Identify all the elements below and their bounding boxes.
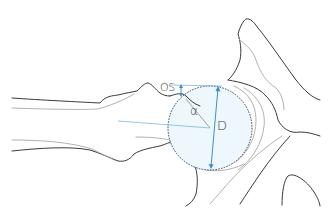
offset-arrow-head-top (179, 84, 183, 88)
socket-outer-outline (228, 19, 320, 100)
shaft-upper-outline (12, 83, 170, 103)
obturator-arc (282, 175, 320, 206)
offset-top-reference-line (170, 85, 222, 86)
diameter-label: D (217, 118, 227, 133)
offset-label: OS (160, 81, 175, 94)
socket-inner-line (238, 38, 284, 110)
diagram-canvas (0, 0, 335, 216)
neck-lower-inner-line (136, 137, 170, 140)
joint-diagram: OS α D (0, 0, 335, 216)
shaft-lower-outline (12, 142, 172, 161)
alpha-angle-label: α (190, 104, 198, 118)
